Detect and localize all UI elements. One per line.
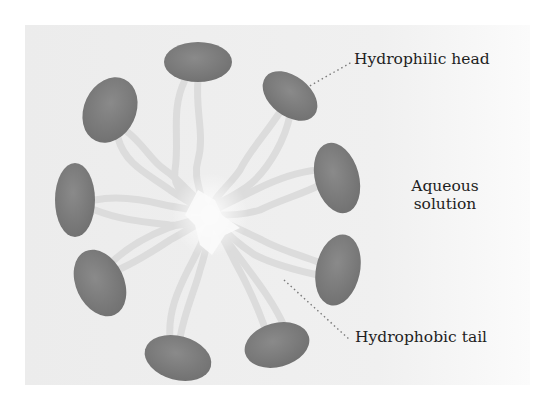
hydrophilic-head-label: Hydrophilic head [354,51,490,69]
head-top [164,42,232,82]
head-left [55,163,95,237]
micelle-diagram: Hydrophilic head Aqueous solution Hydrop… [0,0,540,395]
hydrophobic-tail-label: Hydrophobic tail [355,329,487,347]
aqueous-solution-label: Aqueous solution [400,178,490,214]
aqueous-label-line1: Aqueous [400,178,490,196]
aqueous-label-line2: solution [400,196,490,214]
